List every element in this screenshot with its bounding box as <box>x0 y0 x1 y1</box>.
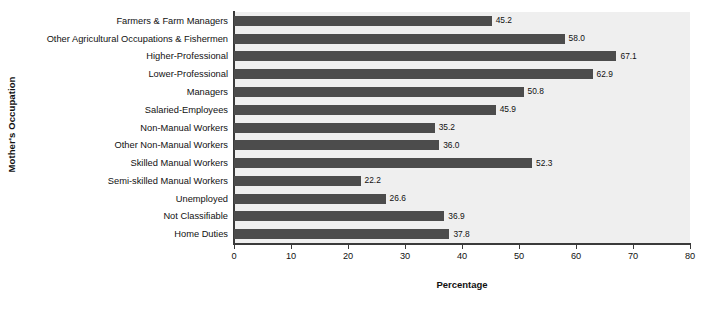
x-axis-tick-label: 0 <box>231 251 236 262</box>
x-axis-tick <box>234 244 235 249</box>
x-axis-tick <box>348 244 349 249</box>
y-axis-category-labels: Farmers & Farm ManagersOther Agricultura… <box>24 12 228 243</box>
category-label: Higher-Professional <box>24 51 228 61</box>
bar-value-label: 26.6 <box>390 194 406 203</box>
category-label: Farmers & Farm Managers <box>24 16 228 26</box>
bar-chart: Mother's Occupation Farmers & Farm Manag… <box>0 0 715 309</box>
bar-value-label: 36.9 <box>448 212 464 221</box>
x-axis-title: Percentage <box>234 279 690 290</box>
x-axis-tick-label: 60 <box>571 251 581 262</box>
bar-value-label: 37.8 <box>453 230 469 239</box>
x-axis-tick-label: 20 <box>343 251 353 262</box>
bar <box>234 123 435 133</box>
bar <box>234 51 616 61</box>
bar <box>234 34 565 44</box>
category-label: Home Duties <box>24 229 228 239</box>
bar-value-label: 62.9 <box>597 70 613 79</box>
x-axis-tick <box>690 244 691 249</box>
x-axis-tick-label: 80 <box>685 251 695 262</box>
bar <box>234 69 593 79</box>
y-axis-title-label: Mother's Occupation <box>6 76 17 172</box>
bar-value-label: 35.2 <box>439 123 455 132</box>
category-label: Semi-skilled Manual Workers <box>24 176 228 186</box>
category-label: Lower-Professional <box>24 69 228 79</box>
x-axis-tick <box>576 244 577 249</box>
category-label: Other Agricultural Occupations & Fisherm… <box>24 34 228 44</box>
category-label: Non-Manual Workers <box>24 123 228 133</box>
bar-value-label: 22.2 <box>365 176 381 185</box>
category-label: Other Non-Manual Workers <box>24 140 228 150</box>
bar <box>234 176 361 186</box>
bar <box>234 158 532 168</box>
x-axis-tick <box>291 244 292 249</box>
bar-value-label: 50.8 <box>528 87 544 96</box>
bar-value-label: 52.3 <box>536 159 552 168</box>
x-axis-tick-label: 30 <box>400 251 410 262</box>
bar-value-label: 67.1 <box>620 52 636 61</box>
x-axis-tick-label: 70 <box>628 251 638 262</box>
bar <box>234 16 492 26</box>
category-label: Skilled Manual Workers <box>24 158 228 168</box>
category-label: Salaried-Employees <box>24 105 228 115</box>
x-axis-tick <box>462 244 463 249</box>
x-axis-tick <box>405 244 406 249</box>
bar <box>234 211 444 221</box>
category-label: Managers <box>24 87 228 97</box>
x-axis-tick <box>633 244 634 249</box>
category-label: Not Classifiable <box>24 211 228 221</box>
y-axis-title: Mother's Occupation <box>0 0 22 248</box>
bar <box>234 87 524 97</box>
x-axis-tick-label: 40 <box>457 251 467 262</box>
x-axis-tick-label: 10 <box>286 251 296 262</box>
category-label: Unemployed <box>24 194 228 204</box>
bar <box>234 105 496 115</box>
x-axis-tick <box>519 244 520 249</box>
bar-value-label: 45.2 <box>496 16 512 25</box>
bar <box>234 140 439 150</box>
bar <box>234 229 449 239</box>
bar-value-label: 58.0 <box>569 34 585 43</box>
x-axis-tick-label: 50 <box>514 251 524 262</box>
bar-value-label: 36.0 <box>443 141 459 150</box>
bar-value-label: 45.9 <box>500 105 516 114</box>
bar <box>234 194 386 204</box>
